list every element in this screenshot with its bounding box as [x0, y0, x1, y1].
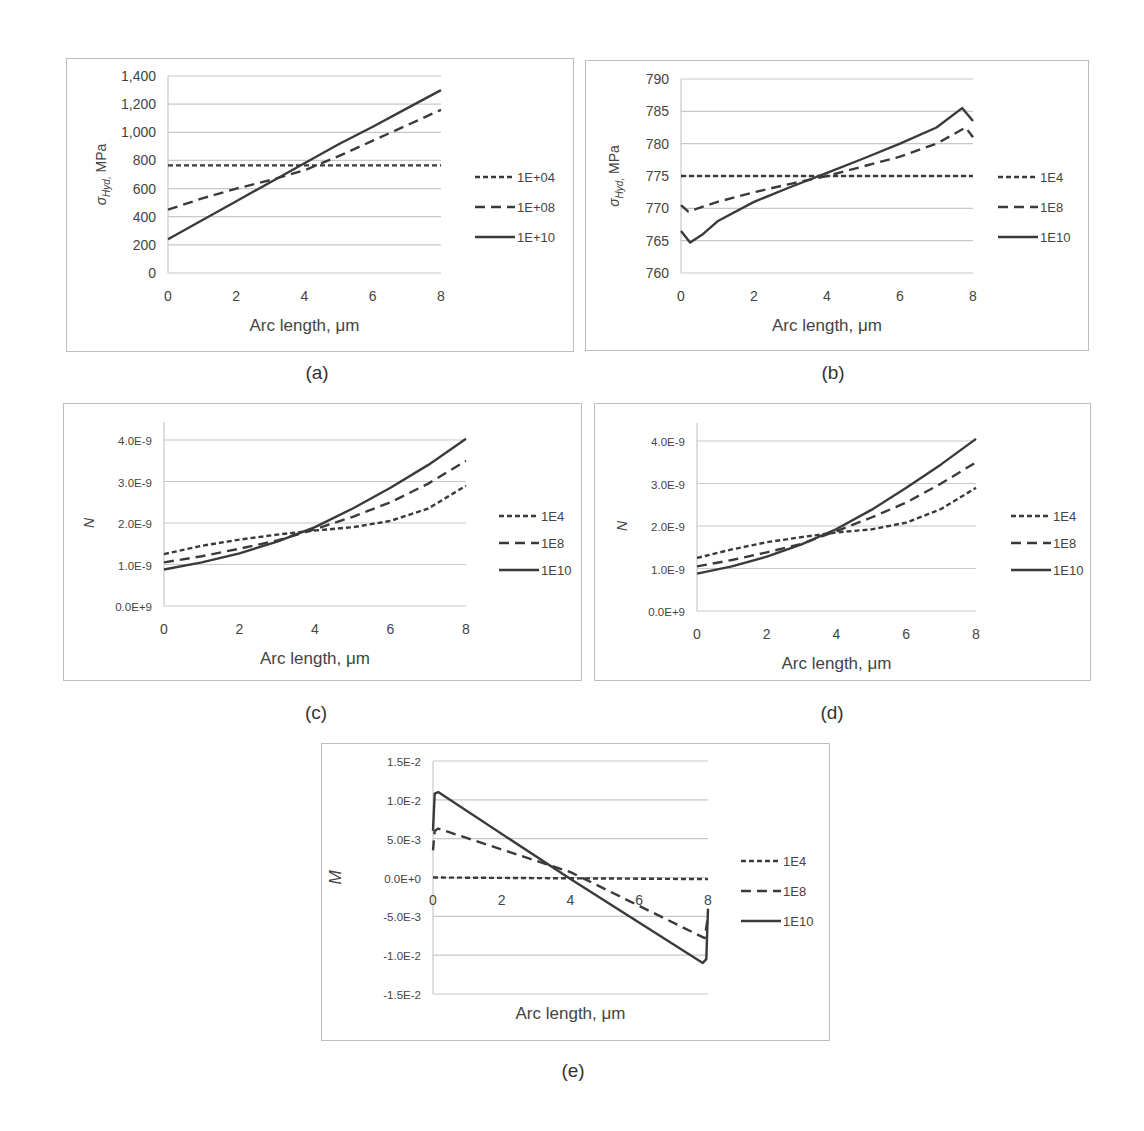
y-tick-label: 760	[646, 265, 670, 281]
x-tick-label: 8	[437, 288, 445, 304]
chart-panel-a: 02004006008001,0001,2001,40002468Arc len…	[66, 58, 574, 352]
legend-label: 1E8	[541, 536, 564, 551]
y-tick-label: -1.5E-2	[383, 989, 421, 1001]
legend-label: 1E+04	[517, 170, 555, 185]
x-tick-label: 4	[311, 621, 319, 637]
y-tick-label: 3.0E-9	[651, 479, 685, 491]
y-tick-label: 800	[133, 152, 157, 168]
chart-d: 0.0E+91.0E-92.0E-93.0E-94.0E-902468Arc l…	[595, 404, 1090, 680]
chart-panel-d: 0.0E+91.0E-92.0E-93.0E-94.0E-902468Arc l…	[594, 403, 1091, 681]
x-tick-label: 2	[232, 288, 240, 304]
y-tick-label: 2.0E-9	[118, 518, 152, 530]
x-tick-label: 6	[369, 288, 377, 304]
y-tick-label: 1.0E-9	[118, 560, 152, 572]
chart-a: 02004006008001,0001,2001,40002468Arc len…	[67, 59, 573, 351]
x-tick-label: 0	[693, 626, 701, 642]
legend-label: 1E8	[1053, 536, 1076, 551]
legend-label: 1E4	[1040, 170, 1063, 185]
legend-label: 1E4	[541, 509, 564, 524]
legend-label: 1E10	[541, 563, 571, 578]
y-tick-label: 4.0E-9	[651, 436, 685, 448]
y-tick-label: 2.0E-9	[651, 521, 685, 533]
y-tick-label: -5.0E-3	[383, 911, 421, 923]
x-tick-label: 6	[896, 288, 904, 304]
caption-d: (d)	[802, 702, 862, 724]
chart-b: 76076577077578078579002468Arc length, μm…	[586, 61, 1088, 350]
x-tick-label: 4	[301, 288, 309, 304]
x-tick-label: 2	[498, 892, 506, 908]
x-tick-label: 8	[462, 621, 470, 637]
chart-panel-e: -1.5E-2-1.0E-2-5.0E-30.0E+05.0E-31.0E-21…	[321, 743, 830, 1041]
y-tick-label: 200	[133, 237, 157, 253]
chart-e: -1.5E-2-1.0E-2-5.0E-30.0E+05.0E-31.0E-21…	[322, 744, 829, 1040]
legend-label: 1E+10	[517, 230, 555, 245]
chart-panel-b: 76076577077578078579002468Arc length, μm…	[585, 60, 1089, 351]
y-axis-title: M	[326, 870, 345, 885]
legend-label: 1E10	[1053, 563, 1083, 578]
y-tick-label: 1,400	[121, 68, 156, 84]
x-tick-label: 0	[160, 621, 168, 637]
x-tick-label: 2	[763, 626, 771, 642]
series-line-1e4	[164, 486, 466, 554]
series-line-1e10	[697, 439, 976, 574]
x-tick-label: 4	[833, 626, 841, 642]
legend-label: 1E8	[1040, 200, 1063, 215]
caption-a: (a)	[287, 362, 347, 384]
legend-label: 1E10	[783, 914, 813, 929]
x-tick-label: 2	[236, 621, 244, 637]
y-tick-label: 3.0E-9	[118, 477, 152, 489]
y-tick-label: 1.0E-2	[387, 795, 421, 807]
y-tick-label: 0.0E+0	[384, 873, 421, 885]
y-axis-title: N	[81, 517, 97, 528]
series-line-1e10	[164, 439, 466, 570]
y-tick-label: 5.0E-3	[387, 834, 421, 846]
legend-label: 1E10	[1040, 230, 1070, 245]
y-tick-label: 0	[148, 265, 156, 281]
x-tick-label: 0	[429, 892, 437, 908]
y-tick-label: 765	[646, 233, 670, 249]
series-line-1e8	[681, 128, 973, 212]
y-tick-label: 0.0E+9	[115, 601, 152, 613]
caption-e: (e)	[543, 1060, 603, 1082]
y-tick-label: 400	[133, 209, 157, 225]
series-line-1e4	[697, 488, 976, 558]
y-tick-label: 1,200	[121, 96, 156, 112]
x-tick-label: 6	[902, 626, 910, 642]
caption-c: (c)	[286, 702, 346, 724]
x-tick-label: 4	[567, 892, 575, 908]
series-line-1e8	[433, 829, 708, 939]
x-tick-label: 0	[164, 288, 172, 304]
x-tick-label: 8	[972, 626, 980, 642]
chart-c: 0.0E+91.0E-92.0E-93.0E-94.0E-902468Arc l…	[64, 404, 581, 680]
x-axis-title: Arc length, μm	[250, 316, 360, 335]
y-tick-label: 600	[133, 181, 157, 197]
x-tick-label: 0	[677, 288, 685, 304]
y-axis-title: N	[614, 520, 630, 531]
y-tick-label: 1,000	[121, 124, 156, 140]
x-axis-title: Arc length, μm	[772, 316, 882, 335]
y-tick-label: 0.0E+9	[648, 606, 685, 618]
y-tick-label: 1.0E-9	[651, 564, 685, 576]
y-tick-label: 1.5E-2	[387, 756, 421, 768]
x-tick-label: 2	[750, 288, 758, 304]
y-tick-label: 785	[646, 103, 670, 119]
x-tick-label: 8	[969, 288, 977, 304]
y-tick-label: 775	[646, 168, 670, 184]
y-tick-label: -1.0E-2	[383, 950, 421, 962]
y-tick-label: 4.0E-9	[118, 435, 152, 447]
legend-label: 1E4	[783, 854, 806, 869]
chart-panel-c: 0.0E+91.0E-92.0E-93.0E-94.0E-902468Arc l…	[63, 403, 582, 681]
y-axis-title: σHyd, MPa	[93, 143, 112, 205]
x-tick-label: 4	[823, 288, 831, 304]
y-tick-label: 770	[646, 200, 670, 216]
y-tick-label: 780	[646, 136, 670, 152]
caption-b: (b)	[803, 362, 863, 384]
x-tick-label: 6	[635, 892, 643, 908]
x-axis-title: Arc length, μm	[516, 1004, 626, 1023]
legend-label: 1E+08	[517, 200, 555, 215]
y-tick-label: 790	[646, 71, 670, 87]
x-axis-title: Arc length, μm	[260, 649, 370, 668]
y-axis-title: σHyd, MPa	[606, 145, 625, 207]
x-axis-title: Arc length, μm	[782, 654, 892, 673]
series-line-1e8	[697, 462, 976, 566]
